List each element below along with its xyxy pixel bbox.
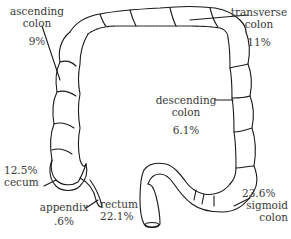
- label-transverse-percent: 11%: [226, 36, 291, 48]
- label-ascending-colon: ascending colon 9%: [5, 5, 69, 47]
- label-descending-line1: descending: [154, 94, 218, 106]
- label-ascending-line1: ascending: [5, 5, 69, 17]
- label-sigmoid-colon: 23.6% sigmoid colon: [238, 187, 288, 223]
- label-cecum-percent: 12.5%: [4, 164, 39, 176]
- label-appendix-name: appendix: [36, 201, 92, 213]
- colon-diagram: ascending colon 9% transverse colon 11% …: [0, 0, 291, 239]
- label-appendix-percent: .6%: [36, 215, 92, 227]
- label-descending-colon: descending colon 6.1%: [154, 94, 218, 136]
- leader-cecum: [44, 180, 56, 186]
- label-appendix: appendix .6%: [36, 201, 92, 227]
- label-cecum-name: cecum: [4, 176, 39, 188]
- label-transverse-line2: colon: [226, 18, 291, 30]
- label-rectum: rectum 22.1%: [100, 198, 138, 222]
- rectum-outline: [140, 170, 160, 227]
- label-sigmoid-line1: sigmoid: [238, 199, 288, 211]
- label-cecum: 12.5% cecum: [4, 164, 39, 188]
- label-rectum-percent: 22.1%: [100, 210, 138, 222]
- label-sigmoid-line2: colon: [238, 211, 288, 223]
- descending-colon-outline: [246, 32, 257, 194]
- label-ascending-percent: 9%: [5, 35, 69, 47]
- label-transverse-line1: transverse: [226, 6, 291, 18]
- label-sigmoid-percent: 23.6%: [238, 187, 288, 199]
- label-ascending-line2: colon: [5, 17, 69, 29]
- label-transverse-colon: transverse colon 11%: [226, 6, 291, 48]
- label-descending-line2: colon: [154, 106, 218, 118]
- label-rectum-name: rectum: [100, 198, 138, 210]
- label-descending-percent: 6.1%: [154, 124, 218, 136]
